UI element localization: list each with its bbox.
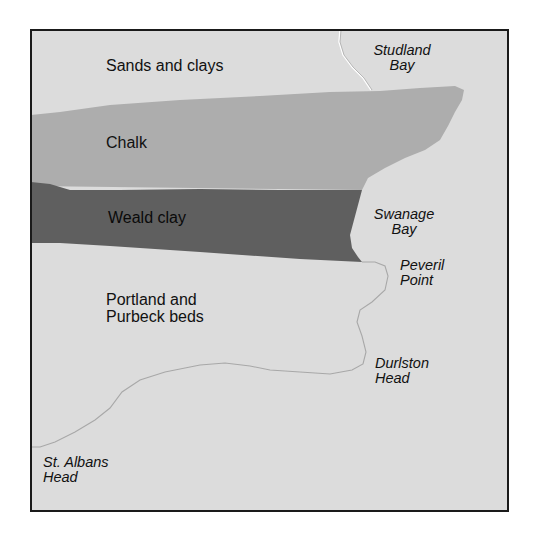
label-studland-bay-line1: Studland — [366, 43, 438, 58]
label-studland-bay-line2: Bay — [366, 58, 438, 73]
label-chalk: Chalk — [106, 135, 147, 152]
label-durlston-head-line1: Durlston — [375, 356, 429, 371]
label-portland-purbeck: Portland and Purbeck beds — [106, 292, 204, 326]
label-portland-purbeck-line1: Portland and — [106, 292, 204, 309]
label-swanage-bay-line1: Swanage — [368, 207, 440, 222]
label-studland-bay: Studland Bay — [366, 43, 438, 73]
label-swanage-bay-line2: Bay — [368, 222, 440, 237]
label-st-albans-head-line1: St. Albans — [43, 455, 109, 470]
label-durlston-head: Durlston Head — [375, 356, 429, 386]
label-peveril-point-line2: Point — [400, 273, 444, 288]
label-peveril-point-line1: Peveril — [400, 258, 444, 273]
label-swanage-bay: Swanage Bay — [368, 207, 440, 237]
label-portland-purbeck-line2: Purbeck beds — [106, 309, 204, 326]
label-sands-and-clays: Sands and clays — [106, 58, 223, 75]
label-peveril-point: Peveril Point — [400, 258, 444, 288]
label-st-albans-head: St. Albans Head — [43, 455, 109, 485]
label-st-albans-head-line2: Head — [43, 470, 109, 485]
label-durlston-head-line2: Head — [375, 371, 429, 386]
label-weald-clay: Weald clay — [108, 210, 186, 227]
